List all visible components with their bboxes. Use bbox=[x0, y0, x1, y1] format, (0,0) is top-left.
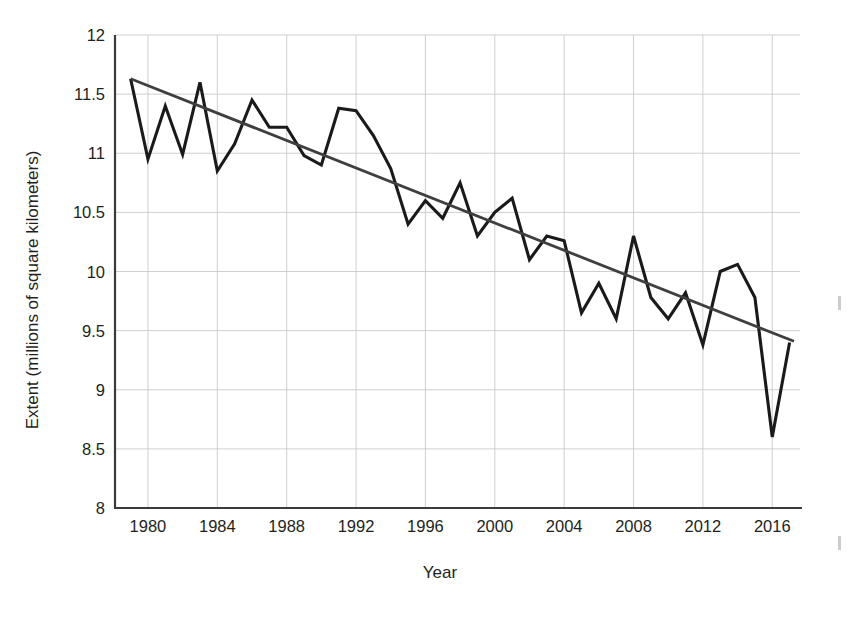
y-tick-label: 8 bbox=[96, 499, 105, 517]
chart-figure: 88.599.51010.51111.512 19801984198819921… bbox=[0, 0, 851, 621]
x-tick-label: 2000 bbox=[476, 517, 513, 535]
y-tick-label: 12 bbox=[87, 26, 105, 44]
x-tick-label: 1996 bbox=[407, 517, 444, 535]
line-chart-svg: 88.599.51010.51111.512 19801984198819921… bbox=[0, 0, 851, 621]
x-tick-label: 1992 bbox=[338, 517, 375, 535]
x-tick-label: 1984 bbox=[199, 517, 236, 535]
y-tick-label: 10.5 bbox=[73, 203, 105, 221]
y-tick-label: 9 bbox=[96, 381, 105, 399]
x-tick-label: 2012 bbox=[685, 517, 722, 535]
y-tick-label: 10 bbox=[87, 263, 105, 281]
x-tick-label: 1980 bbox=[130, 517, 167, 535]
x-tick-label: 1988 bbox=[268, 517, 305, 535]
page-edge-mark-top bbox=[838, 296, 841, 310]
y-tick-label: 9.5 bbox=[82, 322, 105, 340]
page-edge-mark-bottom bbox=[838, 536, 841, 550]
y-axis-title: Extent (millions of square kilometers) bbox=[23, 151, 42, 430]
y-tick-label: 11.5 bbox=[74, 85, 105, 103]
x-tick-label: 2008 bbox=[615, 517, 652, 535]
x-tick-label: 2004 bbox=[546, 517, 583, 535]
y-tick-label: 11 bbox=[88, 144, 105, 162]
x-tick-label: 2016 bbox=[754, 517, 791, 535]
x-axis-title: Year bbox=[423, 563, 458, 582]
y-tick-label: 8.5 bbox=[82, 440, 105, 458]
